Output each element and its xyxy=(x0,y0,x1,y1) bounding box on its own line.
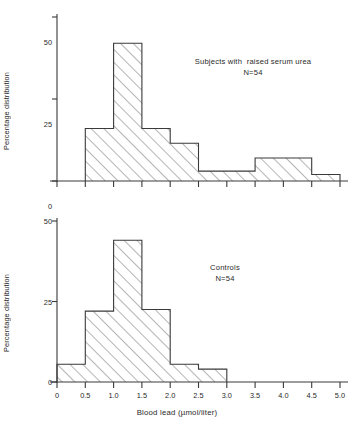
annotation-top-line1: Subjects with raised serum urea xyxy=(195,57,312,66)
annotation-top: Subjects with raised serum ureaN=54 xyxy=(158,56,348,78)
x-tick-label: 4.5 xyxy=(307,391,317,400)
x-tick-label: 5.0 xyxy=(335,391,345,400)
y-axis-label-top: Percentage distribution xyxy=(2,36,18,186)
annotation-bottom-line2: N=54 xyxy=(215,274,234,283)
y-tick-label: 0 xyxy=(48,202,56,211)
y-tick-label: 25 xyxy=(44,297,56,306)
x-tick-label: 0 xyxy=(55,391,59,400)
y-tick-label: 50 xyxy=(44,38,56,47)
annotation-bottom-line1: Controls xyxy=(210,263,240,272)
x-tick-label: 1.5 xyxy=(137,391,147,400)
y-tick-label: 25 xyxy=(44,120,56,129)
x-tick-label: 3.0 xyxy=(222,391,232,400)
x-axis-label: Blood lead (µmol/liter) xyxy=(0,408,354,417)
x-tick-label: 2.5 xyxy=(193,391,203,400)
annotation-bottom: ControlsN=54 xyxy=(160,262,290,284)
annotation-top-line2: N=54 xyxy=(243,68,262,77)
x-tick-label: 2.0 xyxy=(165,391,175,400)
chart-top-canvas xyxy=(0,0,354,214)
x-tick-label: 0.5 xyxy=(80,391,90,400)
y-tick-label: 50 xyxy=(44,217,56,226)
y-tick-label: 0 xyxy=(48,378,56,387)
y-axis-label-bottom: Percentage distribution xyxy=(2,238,18,388)
figure-histogram-pair: Percentage distribution Subjects with ra… xyxy=(0,0,354,428)
chart-bottom-canvas xyxy=(0,206,354,406)
x-tick-label: 4.0 xyxy=(278,391,288,400)
x-tick-label: 3.5 xyxy=(250,391,260,400)
chart-panel-bottom xyxy=(0,206,354,406)
x-tick-label: 1.0 xyxy=(108,391,118,400)
chart-panel-top xyxy=(0,0,354,214)
